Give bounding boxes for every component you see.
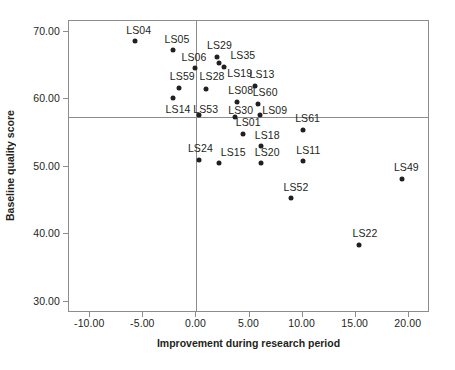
data-point — [300, 127, 305, 132]
x-tick-label: 15.00 — [341, 317, 368, 329]
data-point — [216, 61, 221, 66]
x-tick-label: 20.00 — [394, 317, 421, 329]
data-point-label: LS15 — [221, 146, 246, 158]
scatter-plot-figure: Baseline quality score Improvement durin… — [0, 0, 455, 370]
y-tick-label: 30.00 — [33, 295, 60, 307]
data-point — [222, 64, 227, 69]
data-point-label: LS53 — [193, 103, 218, 115]
data-point-label: LS19 — [227, 67, 252, 79]
vertical-reference-line — [196, 21, 197, 311]
data-point-label: LS30 — [228, 104, 253, 116]
y-tick-label: 40.00 — [33, 227, 60, 239]
data-point — [255, 101, 260, 106]
data-point — [259, 161, 264, 166]
data-point-label: LS60 — [253, 86, 278, 98]
data-point-label: LS09 — [262, 104, 287, 116]
data-point-label: LS20 — [255, 146, 280, 158]
y-tick-label: 70.00 — [33, 25, 60, 37]
data-point-label: LS49 — [394, 161, 419, 173]
data-point — [171, 95, 176, 100]
plot-area: LS04LS05LS29LS35LS06LS19LS13LS59LS28LS08… — [68, 20, 429, 312]
data-point — [400, 176, 405, 181]
x-tick-label: -10.00 — [74, 317, 104, 329]
data-point — [171, 47, 176, 52]
data-point — [203, 87, 208, 92]
data-point — [196, 157, 201, 162]
data-point-label: LS61 — [295, 112, 320, 124]
data-point — [356, 242, 361, 247]
x-tick-label: -5.00 — [130, 317, 154, 329]
data-point-label: LS13 — [250, 68, 275, 80]
data-point — [132, 39, 137, 44]
data-point-label: LS05 — [165, 33, 190, 45]
x-axis-title: Improvement during research period — [68, 337, 429, 349]
data-point-label: LS14 — [166, 103, 191, 115]
data-point-label: LS35 — [230, 49, 255, 61]
data-point — [300, 159, 305, 164]
data-point-label: LS28 — [200, 70, 225, 82]
data-point-label: LS11 — [296, 144, 320, 156]
data-point-label: LS01 — [236, 116, 261, 128]
x-tick-label: 5.00 — [238, 317, 259, 329]
data-point-label: LS18 — [255, 129, 280, 141]
data-point — [216, 161, 221, 166]
data-point — [241, 131, 246, 136]
data-point-label: LS52 — [283, 181, 308, 193]
data-point-label: LS24 — [188, 142, 213, 154]
data-point-label: LS29 — [207, 39, 232, 51]
x-tick-label: 0.00 — [185, 317, 206, 329]
y-tick-label: 50.00 — [33, 160, 60, 172]
data-point — [214, 54, 219, 59]
data-point — [288, 196, 293, 201]
data-point-label: LS04 — [126, 24, 151, 36]
data-point-label: LS22 — [352, 227, 377, 239]
x-tick-label: 10.00 — [288, 317, 315, 329]
data-point-label: LS08 — [228, 84, 253, 96]
data-point — [177, 86, 182, 91]
data-point-label: LS06 — [182, 51, 207, 63]
data-point-label: LS59 — [170, 70, 195, 82]
y-axis-title: Baseline quality score — [4, 20, 16, 312]
y-tick-label: 60.00 — [33, 92, 60, 104]
